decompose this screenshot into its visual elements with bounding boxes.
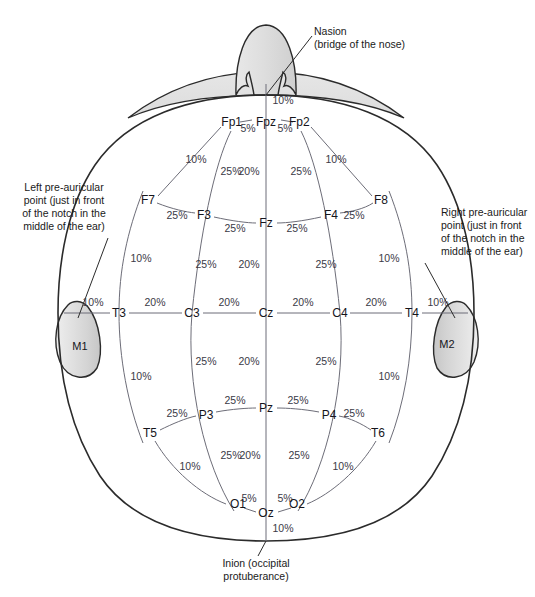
- percent-label-p-p3-o1: 25%: [220, 449, 241, 461]
- percent-label-p-c4-p4: 25%: [315, 355, 336, 367]
- percent-label-p-fz-f4: 25%: [286, 222, 307, 234]
- left-preauricular-line3: of the notch in the: [22, 207, 106, 219]
- electrode-label-F3: F3: [197, 208, 211, 222]
- annotation-inion: Inion (occipital protuberance): [222, 557, 289, 582]
- percent-label-p-f3-fz: 25%: [224, 222, 245, 234]
- electrode-label-T5: T5: [143, 426, 157, 440]
- percent-label-p-t3-t5: 10%: [130, 370, 151, 382]
- electrode-label-F8: F8: [374, 193, 388, 207]
- percent-label-p-cz-pz: 20%: [238, 355, 259, 367]
- nasion-label-line1: Nasion: [314, 25, 347, 37]
- percent-label-p-pz-oz: 20%: [239, 449, 260, 461]
- percent-label-p-c3-p3: 25%: [195, 355, 216, 367]
- electrode-label-Cz: Cz: [259, 306, 274, 320]
- left-preauricular-line4: middle of the ear): [23, 220, 105, 232]
- right-preauricular-line4: middle of the ear): [441, 245, 523, 257]
- leader-right-preauricular: [425, 263, 455, 318]
- inion-label-line1: Inion (occipital: [222, 557, 289, 569]
- mastoid-label-group: M1M2: [72, 338, 454, 352]
- electrode-label-T3: T3: [112, 306, 126, 320]
- percent-label-p-f3-c3: 25%: [195, 258, 216, 270]
- electrode-label-Oz: Oz: [258, 506, 273, 520]
- electrode-label-T6: T6: [371, 426, 385, 440]
- left-preauricular-line2: point (just in front: [24, 194, 105, 206]
- nasion-label-line2: (bridge of the nose): [314, 38, 405, 50]
- percent-label-p-t3-c3: 20%: [144, 296, 165, 308]
- annotation-right-preauricular: Right pre-auricular point (just in front…: [441, 206, 528, 257]
- electrode-label-F7: F7: [141, 193, 155, 207]
- electrode-label-Fp2: Fp2: [289, 115, 310, 129]
- percent-label-p-fz-cz: 20%: [238, 258, 259, 270]
- electrode-label-P4: P4: [322, 408, 337, 422]
- inion-label-line2: protuberance): [223, 570, 288, 582]
- percent-label-p-t5-p3: 25%: [166, 407, 187, 419]
- percent-label-p-t6-o2: 10%: [332, 460, 353, 472]
- electrode-label-O1: O1: [230, 497, 246, 511]
- percent-label-p-nasion-fpz: 10%: [272, 94, 293, 106]
- annotation-left-preauricular: Left pre-auricular point (just in front …: [22, 181, 106, 232]
- link-pz-p4: [277, 408, 319, 412]
- electrode-label-P3: P3: [199, 408, 214, 422]
- percent-label-p-lpa-t3: 10%: [82, 296, 103, 308]
- percent-label-p-f7-f3: 25%: [166, 209, 187, 221]
- percent-label-p-oz-inion: 10%: [272, 522, 293, 534]
- electrode-label-Fpz: Fpz: [256, 115, 276, 129]
- electrode-label-F4: F4: [324, 208, 338, 222]
- annotation-nasion: Nasion (bridge of the nose): [314, 25, 405, 50]
- percent-label-p-f8-t4: 10%: [378, 252, 399, 264]
- mastoid-label-M1: M1: [72, 340, 87, 352]
- electrode-label-C3: C3: [184, 306, 200, 320]
- percent-label-p-t4-t6: 10%: [378, 370, 399, 382]
- electrode-label-O2: O2: [289, 497, 305, 511]
- right-preauricular-line1: Right pre-auricular: [441, 206, 528, 218]
- right-preauricular-line3: of the notch in the: [441, 232, 525, 244]
- percent-label-p-fp2-f4: 25%: [290, 165, 311, 177]
- electrode-label-Pz: Pz: [259, 401, 273, 415]
- electrode-label-C4: C4: [332, 306, 348, 320]
- percent-label-p-t4-rpa: 10%: [427, 296, 448, 308]
- percent-label-p-f4-c4: 25%: [315, 258, 336, 270]
- right-preauricular-line2: point (just in front: [441, 219, 522, 231]
- percent-label-p-c3-cz: 20%: [218, 296, 239, 308]
- percent-label-p-fp2-f8: 10%: [325, 153, 346, 165]
- percent-label-p-fp1-f7: 10%: [185, 153, 206, 165]
- percent-label-p-t5-o1: 10%: [179, 460, 200, 472]
- eeg-10-20-diagram: 10%5%5%10%10%25%20%25%25%25%25%25%10%10%…: [0, 0, 535, 597]
- percent-label-p-c4-t4: 20%: [365, 296, 386, 308]
- electrode-label-Fz: Fz: [259, 216, 272, 230]
- percent-label-p-cz-c4: 20%: [292, 296, 313, 308]
- link-p3-pz: [216, 408, 256, 412]
- percent-label-p-p4-t6: 25%: [343, 407, 364, 419]
- mastoid-label-M2: M2: [439, 338, 454, 350]
- percent-label-p-fpz-fz: 20%: [238, 165, 259, 177]
- percent-label-p-f7-t3: 10%: [130, 252, 151, 264]
- percent-label-p-f4-f8: 25%: [343, 209, 364, 221]
- electrode-label-T4: T4: [405, 306, 419, 320]
- percent-label-p-p3-pz: 25%: [224, 394, 245, 406]
- left-preauricular-line1: Left pre-auricular: [24, 181, 104, 193]
- leader-inion: [258, 541, 266, 556]
- percent-label-p-pz-p4: 25%: [287, 394, 308, 406]
- percent-label-p-fp1-fpz: 5%: [240, 122, 255, 134]
- electrode-label-Fp1: Fp1: [221, 115, 242, 129]
- percent-label-p-p4-o2: 25%: [288, 449, 309, 461]
